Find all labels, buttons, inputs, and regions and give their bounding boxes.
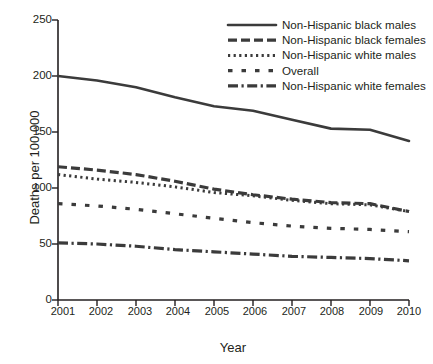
figure-footnote [8, 357, 428, 364]
y-tick-marks [52, 20, 58, 300]
data-series-group [58, 76, 409, 261]
x-tick-marks [58, 300, 409, 306]
series-line-4 [58, 243, 409, 261]
series-line-3 [58, 204, 409, 232]
series-line-1 [58, 167, 409, 212]
legend-label-1: Non-Hispanic black females [282, 33, 426, 46]
legend-label-0: Non-Hispanic black males [282, 18, 416, 31]
plot-area: Non-Hispanic black malesNon-Hispanic bla… [0, 0, 433, 364]
legend-label-3: Overall [282, 64, 319, 77]
chart-figure: Deaths per 100,000 250 200 150 100 50 0 … [0, 0, 433, 364]
chart-legend: Non-Hispanic black malesNon-Hispanic bla… [207, 12, 426, 92]
legend-label-2: Non-Hispanic white males [282, 48, 416, 61]
legend-label-4: Non-Hispanic white females [282, 79, 426, 92]
